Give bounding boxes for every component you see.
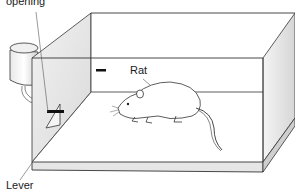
opening-label: opening: [6, 0, 45, 7]
left-wall: [32, 13, 91, 162]
rat-label: Rat: [130, 65, 147, 76]
lever-leader-line: [20, 163, 32, 180]
floor-slab: [32, 162, 263, 172]
skinner-box-diagram: [0, 0, 295, 193]
lever-label: Lever: [6, 180, 34, 191]
food-opening: [96, 69, 106, 72]
